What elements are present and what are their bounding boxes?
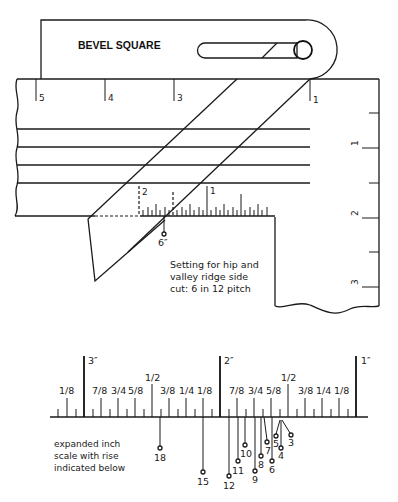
svg-text:1: 1 <box>350 140 360 146</box>
svg-text:5: 5 <box>39 93 45 103</box>
svg-text:4: 4 <box>278 450 284 461</box>
svg-text:1/4: 1/4 <box>179 385 194 396</box>
svg-text:9: 9 <box>252 474 258 485</box>
rise-markers: 18 15 12 11 10 9 8 7 6 <box>154 417 294 491</box>
svg-text:1/2: 1/2 <box>281 372 296 383</box>
svg-text:1/4: 1/4 <box>316 385 331 396</box>
sliding-blade-scale: 2 1 <box>139 186 267 216</box>
expanded-inch-scale: 3″ 2″ 1″ <box>50 355 371 491</box>
svg-text:valley ridge side: valley ridge side <box>170 271 248 282</box>
svg-text:3: 3 <box>177 93 183 103</box>
svg-text:3: 3 <box>288 437 294 448</box>
svg-text:1: 1 <box>210 186 216 196</box>
svg-text:indicated below: indicated below <box>54 463 125 473</box>
right-scale: 1 2 3 <box>350 113 379 287</box>
svg-text:7/8: 7/8 <box>229 385 244 396</box>
svg-text:1/8: 1/8 <box>59 385 74 396</box>
svg-text:12: 12 <box>223 480 235 491</box>
svg-text:1/8: 1/8 <box>197 385 212 396</box>
bevel-square-diagram: BEVEL SQUARE 5 4 3 1 <box>0 0 398 502</box>
svg-text:1/8: 1/8 <box>334 385 349 396</box>
svg-text:6: 6 <box>269 464 275 475</box>
svg-text:3/8: 3/8 <box>298 385 313 396</box>
svg-text:7/8: 7/8 <box>92 385 107 396</box>
svg-text:3/8: 3/8 <box>160 385 175 396</box>
svg-text:2: 2 <box>142 187 148 197</box>
svg-text:15: 15 <box>197 476 209 487</box>
svg-text:5/8: 5/8 <box>266 385 281 396</box>
bevel-square-stock: BEVEL SQUARE <box>41 20 337 79</box>
top-blade-scale: 5 4 3 1 <box>36 79 319 105</box>
setting-marker-label: 6″ <box>158 237 168 248</box>
svg-text:18: 18 <box>154 452 166 463</box>
caption: Setting for hip and valley ridge side cu… <box>170 259 259 294</box>
svg-text:1″: 1″ <box>361 355 371 366</box>
svg-text:2″: 2″ <box>224 355 234 366</box>
svg-text:1: 1 <box>313 95 319 105</box>
svg-text:4: 4 <box>108 93 114 103</box>
tool-title: BEVEL SQUARE <box>78 39 161 51</box>
svg-text:3/4: 3/4 <box>248 385 263 396</box>
svg-text:Setting for hip and: Setting for hip and <box>170 259 259 270</box>
svg-text:7: 7 <box>265 445 271 456</box>
svg-text:5/8: 5/8 <box>128 385 143 396</box>
svg-text:10: 10 <box>240 448 252 459</box>
svg-text:11: 11 <box>232 465 244 476</box>
svg-text:3/4: 3/4 <box>111 385 126 396</box>
svg-text:5: 5 <box>273 438 279 449</box>
svg-text:2: 2 <box>350 210 360 216</box>
svg-text:cut: 6 in 12 pitch: cut: 6 in 12 pitch <box>170 283 251 294</box>
svg-text:3: 3 <box>350 279 360 285</box>
svg-text:1/2: 1/2 <box>145 372 160 383</box>
slot <box>198 43 298 58</box>
setting-marker: 6″ <box>158 216 168 248</box>
svg-text:8: 8 <box>258 459 264 470</box>
svg-text:scale with rise: scale with rise <box>54 451 119 461</box>
svg-text:expanded inch: expanded inch <box>54 439 120 449</box>
svg-text:3″: 3″ <box>88 355 98 366</box>
sliding-blade <box>88 79 310 281</box>
